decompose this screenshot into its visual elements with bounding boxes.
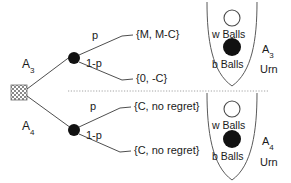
- urn-a3-white-ball: [224, 10, 240, 26]
- outcome-tick-a4-1p: [120, 151, 131, 152]
- urn-a3-name: A3: [262, 44, 274, 58]
- urn-a4-name-subscript: 4: [269, 143, 273, 152]
- action-label-a3: A3: [22, 58, 34, 73]
- action-label-a4: A4: [22, 120, 34, 135]
- action-label-a4-subscript: 4: [30, 128, 34, 137]
- urn-a4-word: Urn: [260, 157, 278, 168]
- urn-a3-word: Urn: [260, 64, 278, 75]
- prob-label-a4-1p: 1-p: [86, 130, 102, 141]
- payoff-a4-p: {C, no regret}: [134, 101, 199, 112]
- decision-tree-figure: A3 A4 p 1-p p 1-p {M, M-C} {0, -C} {C, n…: [0, 0, 291, 183]
- urn-a3-black-ball-label: b Balls: [212, 59, 244, 70]
- urn-a4-name: A4: [262, 136, 274, 150]
- prob-label-a4-p: p: [90, 101, 96, 112]
- urn-a3-black-ball: [223, 38, 241, 56]
- outcome-tick-a4-p: [120, 107, 131, 108]
- urn-a3-name-subscript: 3: [269, 51, 273, 60]
- chance-node-a3: [68, 52, 80, 64]
- outcome-line-a3-p: [79, 36, 122, 55]
- action-label-a4-text: A: [22, 119, 30, 133]
- root-node: [11, 85, 27, 100]
- chance-node-a4: [68, 124, 80, 136]
- urn-a4-white-ball-label: w Balls: [212, 120, 245, 131]
- payoff-a3-p: {M, M-C}: [136, 29, 179, 40]
- urn-a3-white-ball-label: w Balls: [212, 29, 245, 40]
- outcome-tick-a3-1p: [122, 79, 133, 80]
- payoff-a3-1p: {0, -C}: [136, 73, 167, 84]
- prob-label-a3-p: p: [92, 30, 98, 41]
- urn-a4-black-ball-label: b Balls: [212, 151, 244, 162]
- action-label-a3-text: A: [22, 57, 30, 71]
- outcome-tick-a3-p: [122, 35, 133, 36]
- payoff-a4-1p: {C, no regret}: [134, 145, 199, 156]
- action-label-a3-subscript: 3: [30, 66, 34, 75]
- urn-a4-white-ball: [224, 101, 240, 117]
- urn-a4-black-ball: [223, 130, 241, 148]
- outcome-line-a4-p: [79, 108, 120, 127]
- prob-label-a3-1p: 1-p: [86, 58, 102, 69]
